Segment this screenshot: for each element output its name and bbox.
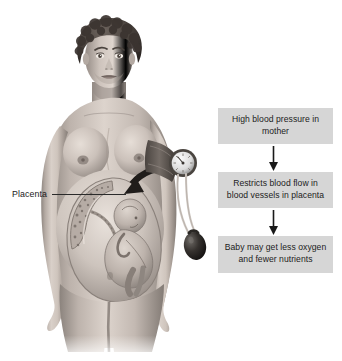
iris-left xyxy=(98,54,102,58)
breast-left xyxy=(63,127,109,177)
iris-right xyxy=(117,54,121,58)
placenta-label: Placenta xyxy=(12,188,47,200)
ear-right xyxy=(129,53,135,65)
fetus-head xyxy=(114,199,146,233)
down-arrow-icon xyxy=(218,208,333,236)
navel xyxy=(107,272,113,280)
ear-left xyxy=(83,53,89,65)
down-arrow-icon xyxy=(218,144,333,172)
flow-arrow-1 xyxy=(218,144,333,172)
flow-step-1: High blood pressure in mother xyxy=(218,108,333,144)
head xyxy=(75,15,142,88)
placenta-callout: Placenta xyxy=(12,186,126,202)
placenta-leader-line xyxy=(52,194,126,195)
bp-bulb xyxy=(181,230,208,262)
illustration-canvas: Placenta High blood pressure in mother R… xyxy=(0,0,342,361)
pregnant-woman-illustration xyxy=(0,0,210,361)
flow-arrow-2 xyxy=(218,208,333,236)
flow-step-2: Restricts blood flow in blood vessels in… xyxy=(218,172,333,208)
flow-step-3: Baby may get less oxygen and fewer nutri… xyxy=(218,236,333,272)
bottom-fade xyxy=(0,300,210,361)
anatomy-drawing xyxy=(0,0,210,361)
flowchart: High blood pressure in mother Restricts … xyxy=(218,108,333,273)
